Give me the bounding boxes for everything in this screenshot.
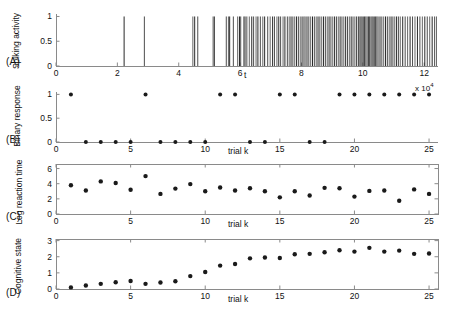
svg-text:5: 5	[128, 144, 133, 154]
svg-text:10: 10	[200, 144, 210, 154]
svg-text:2: 2	[47, 194, 52, 204]
svg-text:5: 5	[128, 291, 133, 301]
svg-text:6: 6	[47, 164, 52, 174]
svg-text:0: 0	[47, 284, 52, 294]
panel-a-plot: 02468101200.51	[56, 14, 438, 66]
panel-b-ylabel: Binary response	[12, 82, 22, 150]
panel-c-xlabel: trial k	[228, 219, 248, 229]
svg-text:0: 0	[54, 216, 59, 226]
panel-a: (A) Spiking activity 02468101200.51 t	[0, 0, 454, 80]
svg-text:6: 6	[238, 68, 243, 78]
svg-text:10: 10	[200, 291, 210, 301]
svg-text:1: 1	[47, 268, 52, 278]
svg-text:1: 1	[47, 89, 52, 99]
panel-d: (D) Cognitive state 05101520250123 trial…	[0, 231, 454, 312]
svg-text:0.5: 0.5	[40, 113, 52, 123]
svg-text:20: 20	[350, 216, 360, 226]
svg-text:15: 15	[275, 291, 285, 301]
svg-text:0: 0	[54, 144, 59, 154]
svg-text:2: 2	[47, 252, 52, 262]
svg-text:0: 0	[47, 61, 52, 71]
svg-text:25: 25	[424, 144, 434, 154]
sci-exponent: 4	[430, 82, 433, 88]
svg-text:5: 5	[128, 216, 133, 226]
svg-text:4: 4	[47, 179, 52, 189]
svg-text:0: 0	[54, 68, 59, 78]
svg-text:2: 2	[115, 68, 120, 78]
panel-d-ylabel: Cognitive state	[13, 233, 23, 299]
svg-text:8: 8	[299, 68, 304, 78]
svg-text:20: 20	[350, 144, 360, 154]
panel-c: (C) Log reaction time 05101520250246 tri…	[0, 155, 454, 233]
panel-a-ylabel: Spiking activity	[11, 9, 21, 73]
panel-b-plot: 051015202500.51	[56, 92, 438, 142]
svg-text:20: 20	[350, 291, 360, 301]
svg-text:15: 15	[275, 216, 285, 226]
svg-text:12: 12	[419, 68, 429, 78]
svg-text:25: 25	[424, 291, 434, 301]
panel-d-xlabel: trial k	[228, 294, 248, 304]
panel-d-plot: 05101520250123	[56, 239, 438, 289]
panel-a-axes: 02468101200.51	[56, 14, 438, 80]
svg-text:25: 25	[424, 216, 434, 226]
svg-text:10: 10	[358, 68, 368, 78]
svg-text:4: 4	[176, 68, 181, 78]
panel-b: (B) Binary response x 104 051015202500.5…	[0, 78, 454, 156]
svg-text:0.5: 0.5	[40, 36, 52, 46]
svg-text:0: 0	[47, 209, 52, 219]
svg-text:10: 10	[200, 216, 210, 226]
svg-text:3: 3	[47, 236, 52, 246]
figure-root: (A) Spiking activity 02468101200.51 t (B…	[0, 0, 454, 312]
svg-text:0: 0	[54, 291, 59, 301]
panel-c-plot: 05101520250246	[56, 164, 438, 214]
panel-c-ylabel: Log reaction time	[14, 157, 24, 227]
svg-text:1: 1	[47, 11, 52, 21]
svg-text:15: 15	[275, 144, 285, 154]
svg-text:0: 0	[47, 137, 52, 147]
